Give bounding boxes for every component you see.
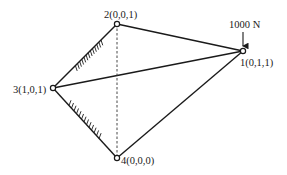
hatch-mark xyxy=(95,46,97,51)
support-edge-3-2 xyxy=(53,24,117,88)
hatch-mark xyxy=(92,49,94,54)
support-edge-3-4 xyxy=(53,88,117,158)
hatch-mark xyxy=(84,57,86,62)
node-1-label: 1(0,1,1) xyxy=(240,57,274,69)
hatch-mark xyxy=(75,66,77,71)
hatch-mark xyxy=(74,106,76,111)
node-3 xyxy=(50,85,55,90)
hatch-mark xyxy=(72,103,74,108)
node-4 xyxy=(114,155,119,160)
wall-hatching-3-2 xyxy=(75,40,102,71)
space-truss-diagram: 1000 N 1(0,1,1) 2(0,0,1) 3(1,0,1) 4(0,0,… xyxy=(0,0,287,175)
hatch-mark xyxy=(101,40,103,45)
member-2-1 xyxy=(117,24,243,51)
node-2-label: 2(0,0,1) xyxy=(104,9,138,21)
member-4-1 xyxy=(117,51,243,158)
hatch-mark xyxy=(77,109,79,114)
hatch-mark xyxy=(99,133,101,138)
hatch-mark xyxy=(97,130,99,135)
hatch-mark xyxy=(99,42,101,47)
hatch-mark xyxy=(82,114,84,119)
hatch-mark xyxy=(87,119,89,124)
hatch-mark xyxy=(82,59,84,64)
hatch-mark xyxy=(69,100,71,105)
load-label: 1000 N xyxy=(229,19,261,30)
node-3-label: 3(1,0,1) xyxy=(13,84,47,96)
hatch-mark xyxy=(84,117,86,122)
node-1 xyxy=(240,48,245,53)
hatch-mark xyxy=(90,51,92,56)
node-4-label: 4(0,0,0) xyxy=(121,155,155,167)
hatch-mark xyxy=(92,125,94,130)
wall-hatching-3-4 xyxy=(69,100,101,138)
hatch-mark xyxy=(86,55,88,60)
hatch-mark xyxy=(78,63,80,68)
hatch-mark xyxy=(88,53,90,58)
hatch-mark xyxy=(97,44,99,49)
hatch-mark xyxy=(80,61,82,66)
node-2 xyxy=(114,21,119,26)
hatch-mark xyxy=(79,111,81,116)
member-3-1 xyxy=(53,51,243,88)
hatch-mark xyxy=(89,122,91,127)
hatch-mark xyxy=(94,128,96,133)
